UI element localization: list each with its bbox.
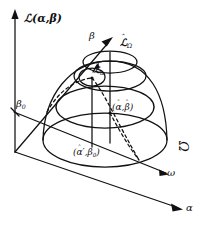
restricted-max-point-dot [90,76,93,79]
beta-axis-arrowhead [102,37,114,47]
beta-axis-line [15,37,113,152]
parameter-space-label: Ω [177,141,190,152]
restricted-max-point-label: (ˆα′,β0) [73,148,100,158]
unrestricted-max-point-label: (ˆα,ˆβ) [112,103,133,112]
figure-drawing [0,0,212,228]
likelihood-axis-label: ℒ(α,β) [24,13,62,24]
restricted-max-value-label: ˆℒω [94,66,105,76]
likelihood-axis-line [11,9,18,152]
unrestricted-max-value-label: ˆℒΩ [120,38,132,49]
likelihood-surface-figure: ℒ(α,β) β ˆℒΩ ˆℒω (ˆα,ˆβ) (ˆα′,β0) β0 ω Ω… [0,0,212,228]
alpha-axis-arrowhead [171,204,183,212]
surface-base-contour [43,113,167,167]
omega-line-label: ω [167,168,175,178]
surface-mid-contour-back [56,86,154,107]
beta-axis-label: β [89,31,95,41]
alpha-axis-line [15,152,183,212]
likelihood-axis-arrowhead [11,9,18,19]
alpha-axis-label: α [186,203,193,213]
beta-zero-label: β0 [16,99,26,110]
